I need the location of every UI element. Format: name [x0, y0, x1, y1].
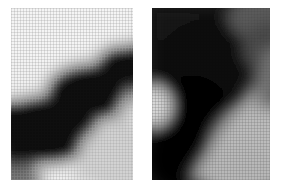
- right-panel-tonal-field: [152, 8, 270, 180]
- left-panel-tonal-field: [11, 8, 133, 180]
- left-grayscale-panel: [11, 8, 133, 180]
- right-grayscale-panel: [152, 8, 270, 180]
- left-panel-image: [11, 8, 133, 180]
- figure-root: [0, 0, 284, 188]
- right-panel-image: [152, 8, 270, 180]
